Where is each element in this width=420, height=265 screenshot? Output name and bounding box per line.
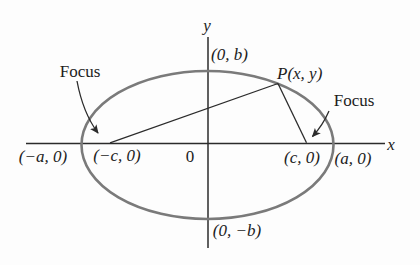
diagram-canvas: y x (0, b) (0, −b) (−a, 0) (a, 0) (−c, 0… [0,0,420,265]
y-axis-label: y [201,16,211,35]
right-focus-callout-label: Focus [334,91,375,110]
left-vertex-label: (−a, 0) [19,147,68,166]
right-focus-arrow [313,111,330,137]
top-vertex-label: (0, b) [211,45,248,64]
ellipse-diagram: y x (0, b) (0, −b) (−a, 0) (a, 0) (−c, 0… [0,0,420,265]
point-p-label: P(x, y) [276,64,323,83]
left-focus-point-label: (−c, 0) [93,146,141,165]
right-vertex-label: (a, 0) [335,149,372,168]
focal-line-right [278,84,307,143]
x-axis-label: x [386,135,395,154]
right-focus-point-label: (c, 0) [284,148,320,167]
left-focus-callout-label: Focus [60,62,101,81]
origin-label: 0 [186,147,195,166]
bottom-vertex-label: (0, −b) [213,221,262,240]
focal-line-left [110,84,278,143]
